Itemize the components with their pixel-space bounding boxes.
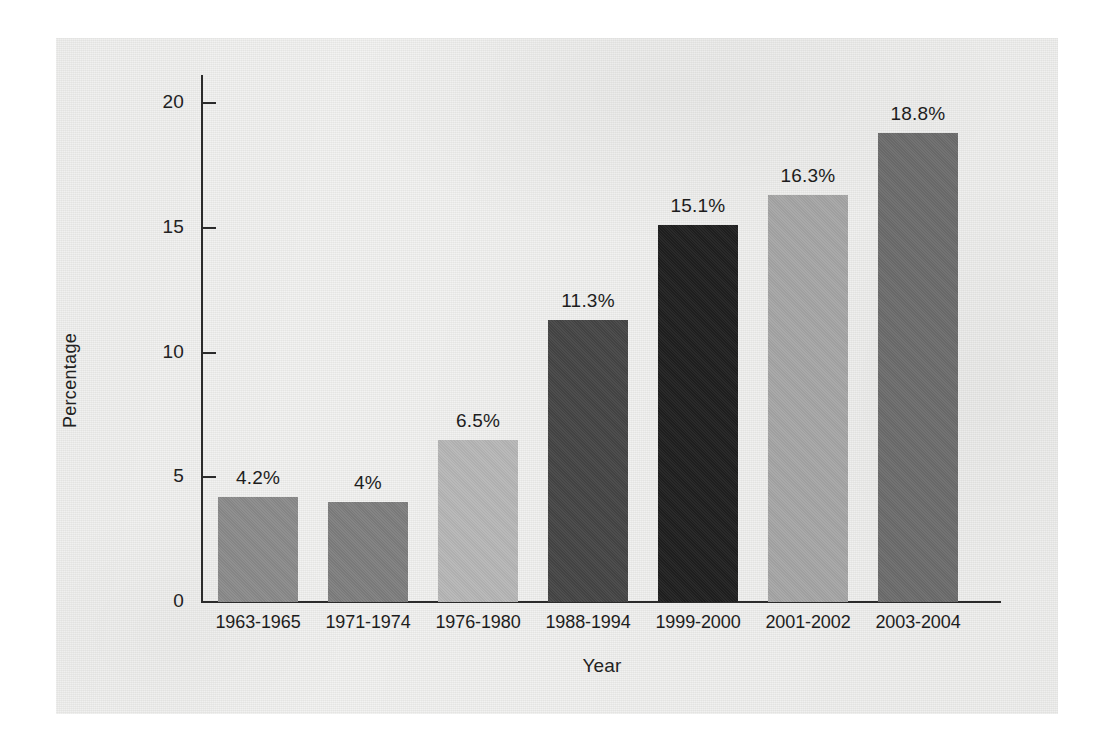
bar-value-label: 18.8% xyxy=(858,103,978,125)
x-axis-category-label: 1963-1965 xyxy=(203,612,313,633)
y-axis-tick xyxy=(203,227,216,229)
y-axis-tick-label: 10 xyxy=(144,341,184,363)
y-axis-line xyxy=(201,75,203,603)
x-axis-category-label: 2001-2002 xyxy=(753,612,863,633)
y-axis-tick-label: 0 xyxy=(144,590,184,612)
bar-value-label: 4.2% xyxy=(198,467,318,489)
x-axis-category-label: 1971-1974 xyxy=(313,612,423,633)
x-axis-category-label: 1976-1980 xyxy=(423,612,533,633)
x-axis-category-label: 2003-2004 xyxy=(863,612,973,633)
bar-value-label: 6.5% xyxy=(418,410,538,432)
bar xyxy=(768,195,848,602)
bar xyxy=(548,320,628,602)
bar-value-label: 11.3% xyxy=(528,290,648,312)
bar xyxy=(328,502,408,602)
y-axis-title: Percentage xyxy=(60,281,81,481)
y-axis-tick xyxy=(203,352,216,354)
x-axis-title: Year xyxy=(202,655,1002,677)
chart-page: 05101520 Percentage Year 4.2%1963-19654%… xyxy=(0,0,1105,745)
bar-value-label: 15.1% xyxy=(638,195,758,217)
y-axis-tick xyxy=(203,102,216,104)
x-axis-category-label: 1999-2000 xyxy=(643,612,753,633)
x-axis-category-label: 1988-1994 xyxy=(533,612,643,633)
bar xyxy=(658,225,738,602)
bar xyxy=(878,133,958,602)
y-axis-tick-label: 15 xyxy=(144,216,184,238)
bar-value-label: 16.3% xyxy=(748,165,868,187)
bar xyxy=(218,497,298,602)
bar xyxy=(438,440,518,602)
bar-chart: 05101520 Percentage Year 4.2%1963-19654%… xyxy=(0,0,1105,745)
y-axis-tick-label: 20 xyxy=(144,91,184,113)
y-axis-tick-label: 5 xyxy=(144,465,184,487)
bar-value-label: 4% xyxy=(308,472,428,494)
